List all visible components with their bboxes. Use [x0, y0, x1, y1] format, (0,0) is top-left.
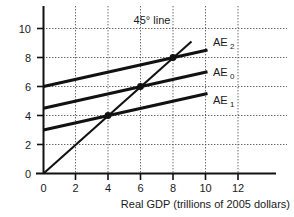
series-line-45-degree: [44, 42, 192, 174]
x-axis-tick-labels: 0 2 4 6 8 10 12: [40, 182, 244, 194]
series-label-ae2-subscript: 2: [230, 42, 235, 51]
x-tick-label-0: 0: [40, 182, 46, 194]
series-line-ae0: [44, 72, 208, 109]
series-label-ae0-group: AE 0: [213, 66, 235, 81]
x-tick-label-6: 6: [137, 182, 143, 194]
series-label-ae0: AE: [213, 66, 228, 78]
x-tick-label-8: 8: [170, 182, 176, 194]
series-label-ae2-group: AE 2: [213, 36, 235, 51]
aggregate-expenditure-chart: 10 8 6 4 2 0 0 2 4 6 8 10 12: [0, 0, 294, 217]
chart-canvas: 10 8 6 4 2 0 0 2 4 6 8 10 12: [0, 0, 294, 217]
x-axis-title: Real GDP (trillions of 2005 dollars): [121, 198, 290, 210]
y-tick-label-4: 4: [25, 110, 31, 122]
vertical-gridlines: [76, 6, 239, 174]
equilibrium-dot-ae2: [170, 54, 177, 61]
x-tick-label-12: 12: [232, 182, 244, 194]
x-tick-label-2: 2: [72, 182, 78, 194]
equilibrium-dot-ae1: [105, 112, 112, 119]
y-axis-tick-labels: 10 8 6 4 2 0: [19, 23, 31, 180]
series-line-ae1: [44, 93, 208, 130]
horizontal-gridlines: [43, 29, 287, 145]
series-label-ae1: AE: [213, 94, 228, 106]
series-label-ae2: AE: [213, 36, 228, 48]
x-tick-label-4: 4: [105, 182, 111, 194]
forty-five-degree-label: 45° line: [134, 14, 171, 26]
y-tick-label-10: 10: [19, 23, 31, 35]
equilibrium-dot-ae0: [137, 83, 144, 90]
x-tick-label-10: 10: [199, 182, 211, 194]
series-label-ae0-subscript: 0: [230, 72, 235, 81]
series-label-ae1-group: AE 1: [213, 94, 235, 109]
y-tick-label-0: 0: [25, 168, 31, 180]
series-label-ae1-subscript: 1: [230, 100, 235, 109]
series-line-ae2: [44, 50, 208, 87]
y-tick-label-6: 6: [25, 81, 31, 93]
y-tick-label-2: 2: [25, 139, 31, 151]
y-tick-label-8: 8: [25, 52, 31, 64]
